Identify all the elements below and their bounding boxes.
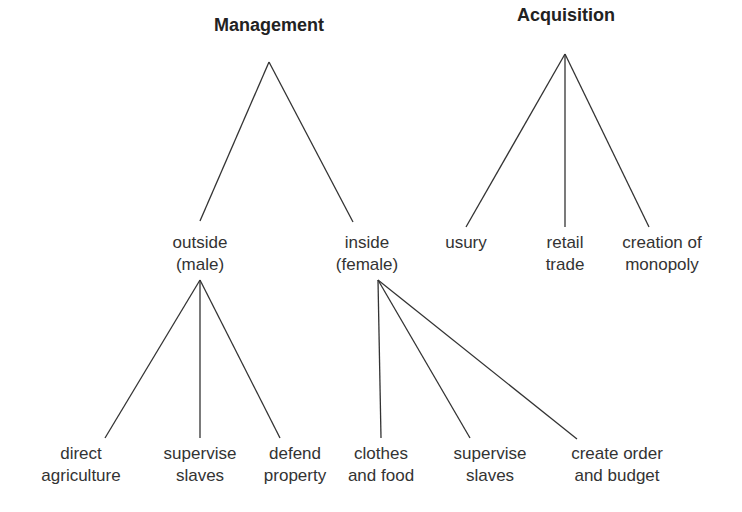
node-label-line1: direct [41,443,120,465]
node-management: Management [214,14,324,36]
node-label-line1: creation of [622,232,701,254]
node-label-line1: supervise [164,443,237,465]
node-defend-property: defend property [264,443,326,487]
edge-management-to-outside [200,62,269,221]
node-outside-male: outside (male) [173,232,228,276]
node-label-line1: create order [571,443,663,465]
node-creation-of-monopoly: creation of monopoly [622,232,701,276]
edge-acquisition-to-creation_monopoly [565,54,649,227]
node-label-line1: defend [264,443,326,465]
edge-outside-to-defend_property [200,280,280,438]
node-label-line1: clothes [348,443,414,465]
node-label-line2: and food [348,465,414,487]
node-supervise-slaves-male: supervise slaves [164,443,237,487]
node-usury: usury [445,232,487,254]
node-label-line2: slaves [164,465,237,487]
node-label-line2: agriculture [41,465,120,487]
node-label-line2: (female) [336,254,398,276]
node-retail-trade: retail trade [546,232,585,276]
node-label: Acquisition [517,4,615,26]
node-create-order-and-budget: create order and budget [571,443,663,487]
node-label-line2: property [264,465,326,487]
edge-outside-to-direct_agriculture [105,280,200,438]
node-label-line1: supervise [454,443,527,465]
node-inside-female: inside (female) [336,232,398,276]
node-clothes-and-food: clothes and food [348,443,414,487]
node-label-line2: (male) [173,254,228,276]
node-label-line2: and budget [571,465,663,487]
edge-inside-to-create_order_budget [378,280,577,439]
node-label-line1: usury [445,232,487,254]
node-label-line2: slaves [454,465,527,487]
edge-management-to-inside [269,62,353,222]
node-supervise-slaves-female: supervise slaves [454,443,527,487]
edge-acquisition-to-usury [466,54,565,227]
edge-inside-to-clothes_food [378,280,381,438]
edge-inside-to-supervise_slaves_f [378,280,470,438]
node-label-line2: monopoly [622,254,701,276]
node-direct-agriculture: direct agriculture [41,443,120,487]
node-label-line1: retail [546,232,585,254]
node-label-line1: outside [173,232,228,254]
node-label-line2: trade [546,254,585,276]
node-acquisition: Acquisition [517,4,615,26]
node-label: Management [214,14,324,36]
node-label-line1: inside [336,232,398,254]
